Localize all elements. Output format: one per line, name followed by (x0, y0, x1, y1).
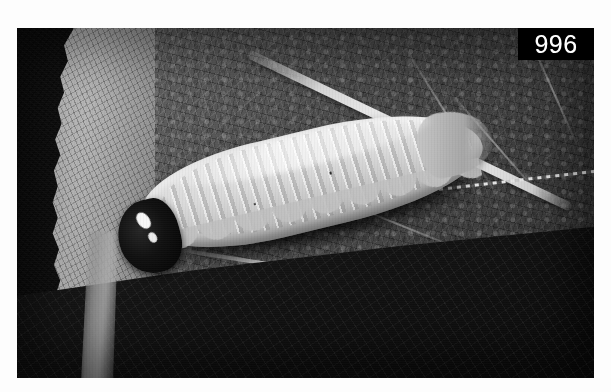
figure-number-plate: 996 (518, 28, 594, 60)
screenshot-root: 996 (0, 0, 611, 392)
photograph: 996 (17, 28, 594, 378)
caterpillar-spiracle (253, 203, 256, 206)
caterpillar-spiracle (329, 172, 332, 175)
figure-number-text: 996 (534, 32, 577, 57)
